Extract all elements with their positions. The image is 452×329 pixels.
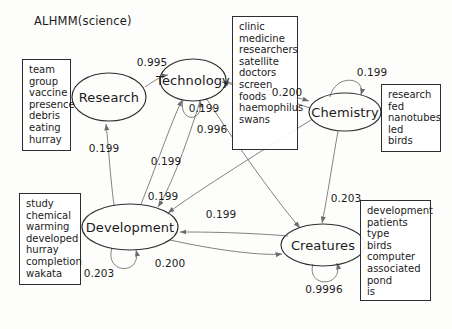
- edge-development-to-creatures: [170, 240, 282, 254]
- emission-word: warming: [26, 221, 75, 233]
- diagram-canvas: ALHMM(science): [0, 0, 452, 329]
- emission-word: debris: [29, 110, 65, 122]
- edge-label-development-to-technology: 0.199: [151, 155, 182, 167]
- emission-word: vaccine: [29, 87, 65, 99]
- emission-word: hurray: [29, 134, 65, 146]
- emission-word: pond: [367, 275, 425, 287]
- emission-word: birds: [367, 240, 425, 252]
- emission-word: computer: [367, 251, 425, 263]
- edge-creatures-to-development: [180, 232, 288, 236]
- emission-word: is: [367, 286, 425, 298]
- edge-label-development-to-creatures: 0.200: [155, 257, 186, 269]
- edge-label-creatures-to-development: 0.199: [206, 208, 237, 220]
- emission-box-chemistry: researchfednanotubesledbirds: [381, 84, 441, 152]
- emission-word: birds: [388, 135, 435, 147]
- emission-word: hurray: [26, 244, 75, 256]
- emission-box-research: teamgroupvaccinepresencedebriseatinghurr…: [22, 59, 71, 151]
- edge-label-development-to-research: 0.199: [89, 142, 120, 154]
- state-label-technology: Technology: [156, 73, 230, 88]
- emission-box-development: studychemicalwarmingdevelopedhurraycompl…: [19, 193, 81, 285]
- emission-word: completion: [26, 256, 75, 268]
- edge-development-to-technology: [141, 100, 182, 204]
- emission-word: led: [388, 124, 435, 136]
- emission-word: developed: [26, 233, 75, 245]
- edge-label-technology-self: 0.996: [197, 123, 228, 135]
- edge-label-chemistry-self: 0.199: [357, 66, 388, 78]
- edge-label-technology-to-chemistry: 0.200: [272, 86, 303, 98]
- emission-word: haemophilus: [239, 102, 292, 114]
- emission-word: doctors: [239, 67, 292, 79]
- edge-development-to-research: [106, 124, 114, 205]
- emission-word: group: [29, 76, 65, 88]
- emission-word: study: [26, 198, 75, 210]
- emission-word: clinic: [239, 21, 292, 33]
- emission-word: researchers: [239, 44, 292, 56]
- edge-label-chemistry-to-development: 0.199: [148, 190, 179, 202]
- edge-label-technology-to-development: 0.199: [189, 102, 220, 114]
- edge-development-self: [111, 248, 137, 269]
- edge-chemistry-to-creatures: [322, 131, 338, 223]
- emission-word: eating: [29, 122, 65, 134]
- emission-word: swans: [239, 114, 292, 126]
- emission-word: fed: [388, 101, 435, 113]
- edge-label-creatures-self: 0.9996: [305, 283, 342, 295]
- emission-word: patients: [367, 217, 425, 229]
- state-label-research: Research: [79, 90, 139, 105]
- emission-word: wakata: [26, 268, 75, 280]
- emission-word: team: [29, 64, 65, 76]
- emission-word: associated: [367, 263, 425, 275]
- emission-box-creatures: developmentpatientstypebirdscomputerasso…: [360, 200, 431, 301]
- edge-label-chemistry-to-creatures: 0.203: [331, 192, 362, 204]
- state-label-creatures: Creatures: [291, 238, 355, 253]
- emission-word: research: [388, 89, 435, 101]
- emission-word: medicine: [239, 33, 292, 45]
- emission-word: presence: [29, 99, 65, 111]
- emission-word: nanotubes: [388, 112, 435, 124]
- emission-word: satellite: [239, 56, 292, 68]
- emission-box-technology: clinicmedicineresearcherssatellitedoctor…: [232, 16, 298, 150]
- emission-word: type: [367, 228, 425, 240]
- state-label-chemistry: Chemistry: [311, 105, 378, 120]
- edge-label-development-self: 0.203: [84, 267, 115, 279]
- edge-label-research-to-technology: 0.995: [137, 56, 168, 68]
- state-label-development: Development: [86, 220, 175, 235]
- emission-word: chemical: [26, 210, 75, 222]
- emission-word: development: [367, 205, 425, 217]
